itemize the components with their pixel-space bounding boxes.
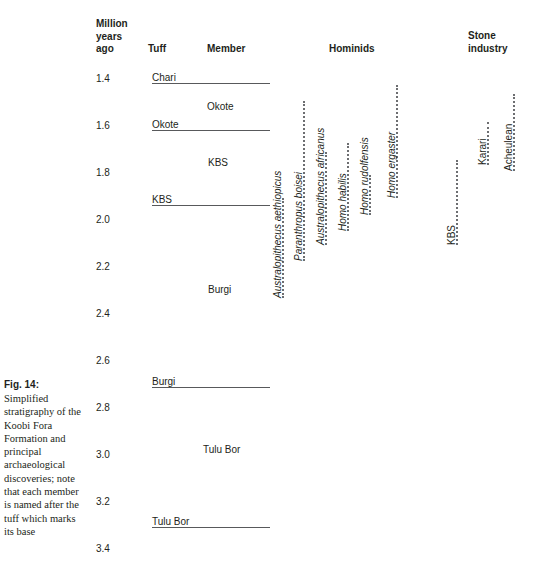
member-label: Burgi [208, 284, 231, 295]
hominid-range-label: Australopithecus aethiopicus [273, 171, 283, 298]
column-header-scale: Million years ago [96, 18, 142, 56]
hominid-range-australopithecus-africanus: Australopithecus africanus [325, 152, 327, 245]
hominid-range-label: Homo habilis [338, 173, 348, 231]
scale-tick: 3.0 [96, 449, 126, 460]
stone-industry-label: Acheulean [504, 124, 514, 171]
tuff-boundary-line [152, 205, 270, 206]
figure-caption-body: Simplified stratigraphy of the Koobi For… [4, 393, 81, 537]
tuff-boundary-line [152, 130, 270, 131]
hominid-range-label: Australopithecus africanus [316, 128, 326, 245]
stone-industry-range-kbs: KBS [456, 160, 458, 245]
hominid-range-australopithecus-aethiopicus: Australopithecus aethiopicus [282, 198, 284, 298]
column-header-tuff: Tuff [148, 43, 166, 56]
tuff-label: Chari [152, 72, 179, 83]
scale-tick: 2.0 [96, 214, 126, 225]
figure-caption: Fig. 14:Simplified stratigraphy of the K… [4, 378, 88, 538]
scale-tick: 2.8 [96, 402, 126, 413]
stone-industry-range-karari: Karari [487, 122, 489, 165]
member-label: Okote [207, 101, 234, 112]
hominid-range-homo-rudolfensis: Homo rudolfensis [369, 175, 371, 215]
scale-tick: 2.2 [96, 261, 126, 272]
scale-tick: 1.6 [96, 120, 126, 131]
hominid-range-homo-habilis: Homo habilis [347, 143, 349, 231]
stratigraphy-figure: Fig. 14:Simplified stratigraphy of the K… [0, 0, 533, 561]
stone-industry-range-acheulean: Acheulean [513, 94, 515, 171]
column-header-hominids: Hominids [329, 43, 375, 56]
tuff-label: Burgi [152, 376, 178, 387]
stone-industry-label: Karari [478, 138, 488, 165]
scale-tick: 1.8 [96, 167, 126, 178]
scale-tick: 3.4 [96, 543, 126, 554]
scale-tick: 2.4 [96, 308, 126, 319]
column-header-member: Member [207, 43, 245, 56]
stone-industry-label: KBS [447, 225, 457, 245]
tuff-label: Okote [152, 119, 182, 130]
tuff-boundary-line [152, 83, 270, 84]
tuff-label: KBS [152, 194, 175, 205]
scale-tick: 1.4 [96, 73, 126, 84]
tuff-boundary-line [152, 527, 270, 528]
hominid-range-label: Homo ergaster [387, 132, 397, 198]
scale-tick: 3.2 [96, 496, 126, 507]
hominid-range-label: Paranthropus boisei [294, 172, 304, 261]
member-label: KBS [208, 157, 228, 168]
hominid-range-homo-ergaster: Homo ergaster [396, 85, 398, 198]
hominid-range-paranthropus-boisei: Paranthropus boisei [303, 101, 305, 261]
hominid-range-label: Homo rudolfensis [360, 137, 370, 215]
member-label: Tulu Bor [203, 444, 240, 455]
figure-caption-title: Fig. 14: [4, 378, 88, 392]
tuff-label: Tulu Bor [152, 516, 192, 527]
scale-tick: 2.6 [96, 355, 126, 366]
tuff-boundary-line [152, 387, 270, 388]
column-header-stone-industry: Stone industry [468, 30, 528, 55]
